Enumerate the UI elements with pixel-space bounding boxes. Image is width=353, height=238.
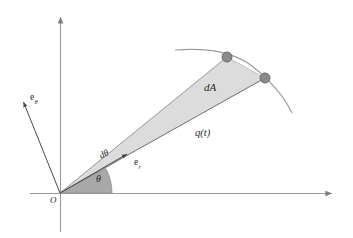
dA-area-label: dA: [204, 82, 216, 93]
origin-label: O: [50, 196, 57, 205]
diagram-canvas: O θ dθ er eθ dA q(t): [0, 0, 353, 238]
radial-ray-lower: [60, 78, 265, 193]
radial-ray-upper: [60, 57, 227, 193]
e-theta-label: eθ: [30, 93, 37, 104]
e-theta-vector-arrow: [24, 102, 61, 193]
particle-position-2: [260, 73, 270, 83]
e-theta-label-subscript: θ: [34, 98, 37, 105]
e-r-label-subscript: r: [138, 163, 141, 170]
theta-angle-label: θ: [96, 174, 101, 184]
swept-area-wedge: [60, 57, 265, 193]
particle-position-1: [222, 52, 232, 62]
e-r-label: er: [134, 158, 141, 169]
position-vector-label: q(t): [195, 128, 210, 139]
